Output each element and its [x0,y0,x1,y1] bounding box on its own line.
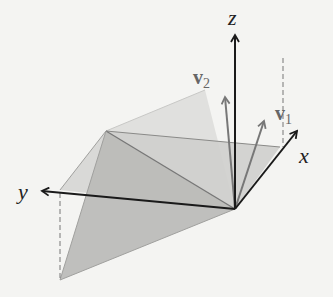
vector-v2-label: v2 [193,66,210,91]
vector-v1-label-main: v [275,102,285,124]
diagram-svg: z x y v2 v1 [0,0,333,297]
vector-v1-label-sub: 1 [285,112,292,127]
x-axis-label: x [298,143,309,168]
vector-v1-label: v1 [275,102,292,127]
vector-v2-label-main: v [193,66,203,88]
y-axis-label: y [16,179,28,204]
z-axis-label: z [227,5,237,30]
vector-v2-label-sub: 2 [203,76,210,91]
diagram-canvas: z x y v2 v1 [0,0,333,297]
